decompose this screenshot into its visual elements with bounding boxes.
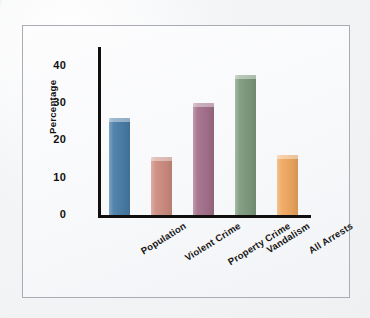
bar-property-crime — [193, 103, 214, 215]
y-tick-0: 0 — [26, 208, 66, 220]
x-axis-line — [98, 215, 311, 218]
bar-series — [101, 47, 311, 215]
bar-population — [109, 118, 130, 215]
x-axis-category-labels: Population Violent Crime Property Crime … — [101, 220, 316, 290]
bar-vandalism — [235, 75, 256, 215]
bar-violent-crime — [151, 157, 172, 215]
chart-figure-frame: Percentage 40 30 20 10 0 — [22, 25, 350, 298]
x-label-all-arrests: All Arrests — [307, 220, 355, 256]
bar-all-arrests — [277, 155, 298, 215]
y-tick-40: 40 — [26, 59, 66, 71]
y-tick-10: 10 — [26, 171, 66, 183]
x-label-population: Population — [139, 220, 188, 256]
y-tick-20: 20 — [26, 133, 66, 145]
y-tick-30: 30 — [26, 96, 66, 108]
plot-area: Percentage 40 30 20 10 0 — [23, 26, 349, 297]
